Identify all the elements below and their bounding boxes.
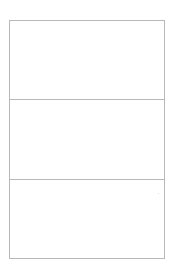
panel-middle [10,99,164,178]
panel-bottom [10,179,164,258]
panel-top [10,21,164,99]
three-panel-frame [9,20,165,259]
faint-mark [158,193,159,194]
